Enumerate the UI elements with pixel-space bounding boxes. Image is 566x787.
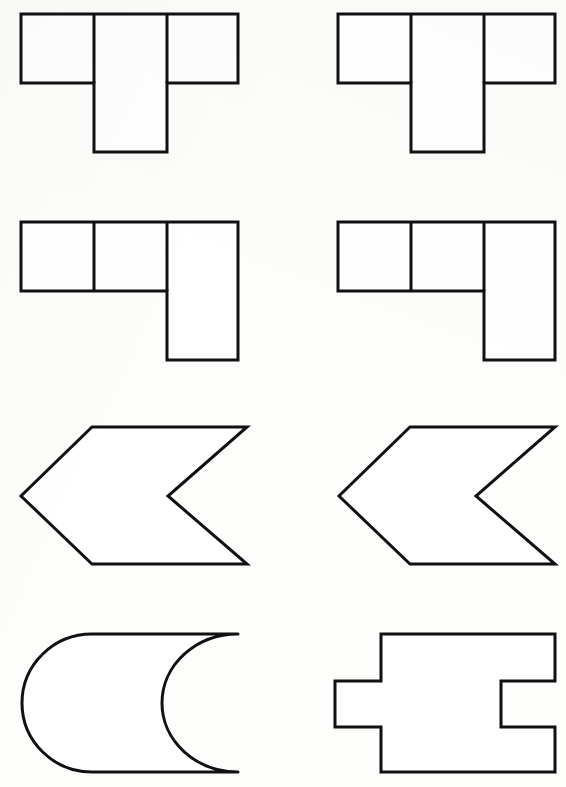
shapes-canvas xyxy=(0,0,566,787)
worksheet-page xyxy=(0,0,566,787)
